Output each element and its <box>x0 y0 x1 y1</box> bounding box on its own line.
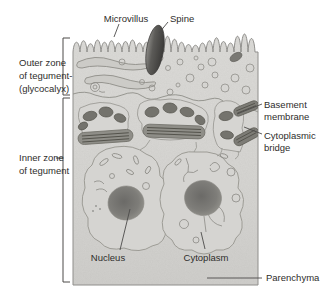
label-parenchyma: Parenchyma <box>266 272 320 283</box>
label-spine: Spine <box>170 13 194 24</box>
label-basement-membrane-line2: membrane <box>264 111 309 122</box>
label-outer-zone-line3: (glycocalyx) <box>19 83 69 94</box>
label-inner-zone-line1: Inner zone <box>19 152 64 163</box>
label-basement-membrane-line1: Basement <box>264 99 307 110</box>
label-outer-zone-line1: Outer zone <box>19 57 66 68</box>
label-cytoplasm: Cytoplasm <box>184 252 229 263</box>
muscle-fiber-bar-middle <box>143 124 205 139</box>
inner-zone-bracket <box>63 98 70 282</box>
microvillus-leader-line <box>114 24 119 37</box>
diagram-canvas: Microvillus Spine Outer zone of tegument… <box>0 0 335 302</box>
label-cytoplasmic-bridge-line2: bridge <box>264 142 290 153</box>
label-outer-zone-line2: of tegument- <box>19 70 72 81</box>
label-cytoplasmic-bridge-line1: Cytoplasmic <box>264 130 316 141</box>
label-inner-zone-line2: of tegument <box>19 165 70 176</box>
figure-tegument-diagram: Microvillus Spine Outer zone of tegument… <box>0 0 335 302</box>
label-nucleus: Nucleus <box>91 252 126 263</box>
muscle-cluster-left <box>77 102 133 144</box>
label-microvillus: Microvillus <box>104 13 149 24</box>
